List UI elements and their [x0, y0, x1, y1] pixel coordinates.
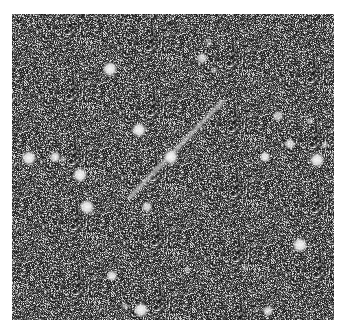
star-field-image [12, 14, 334, 320]
star-overlay [12, 14, 334, 320]
star [106, 270, 118, 282]
star [241, 264, 249, 272]
star [49, 151, 61, 163]
star [284, 138, 296, 150]
star [141, 201, 153, 213]
star [306, 117, 314, 125]
star [309, 152, 325, 168]
star [321, 141, 329, 149]
satellite-streak [130, 102, 222, 197]
star [262, 305, 274, 317]
star [131, 122, 147, 138]
star [21, 150, 37, 166]
star [102, 61, 118, 77]
star [121, 302, 129, 310]
star [183, 266, 191, 274]
star [205, 39, 213, 47]
star [133, 302, 149, 318]
star [196, 52, 208, 64]
star [163, 149, 179, 165]
star [79, 199, 95, 215]
star [259, 151, 271, 163]
star [72, 167, 88, 183]
star [210, 66, 218, 74]
star [59, 155, 67, 163]
star [292, 237, 308, 253]
star [272, 110, 284, 122]
